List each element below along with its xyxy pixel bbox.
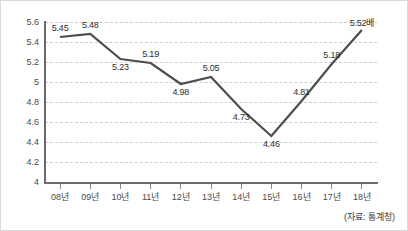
plot-area	[45, 22, 377, 182]
x-axis-tick	[241, 184, 242, 189]
x-axis-tick	[150, 184, 151, 189]
data-point-label: 5.48	[82, 20, 99, 30]
x-axis-tick	[271, 184, 272, 189]
ytick-label: 4.2	[9, 158, 39, 167]
chart-figure: 5.6 5.4 5.2 5 4.8 4.6 4.4 4.2 4 08년09년10…	[0, 0, 408, 231]
data-point-label: 5.23	[112, 62, 129, 72]
x-axis-tick	[331, 184, 332, 189]
xtick-label: 18년	[342, 190, 382, 203]
ytick-label: 5.6	[9, 18, 39, 27]
ytick-label: 5.4	[9, 38, 39, 47]
data-point-label: 4.73	[233, 112, 250, 122]
x-axis-tick	[60, 184, 61, 189]
data-point-label: 4.98	[172, 87, 189, 97]
x-axis-tick	[180, 184, 181, 189]
source-note: (자료: 통계청)	[344, 210, 395, 223]
ytick-label: 4	[9, 178, 39, 187]
data-point-label: 4.81	[293, 87, 310, 97]
data-point-label: 5.52배	[350, 16, 375, 29]
x-axis-tick	[211, 184, 212, 189]
data-point-label: 5.19	[142, 49, 159, 59]
x-axis-tick	[120, 184, 121, 189]
data-point-label: 5.18	[323, 50, 340, 60]
ytick-label: 5.2	[9, 58, 39, 67]
data-point-label: 5.45	[52, 23, 69, 33]
x-axis-tick	[361, 184, 362, 189]
ytick-label: 5	[9, 78, 39, 87]
ytick-label: 4.6	[9, 118, 39, 127]
data-point-label: 4.46	[263, 139, 280, 149]
x-axis-tick	[301, 184, 302, 189]
data-point-label: 5.05	[203, 63, 220, 73]
y-axis-line	[44, 21, 46, 183]
ytick-label: 4.8	[9, 98, 39, 107]
ytick-label: 4.4	[9, 138, 39, 147]
data-series-line	[45, 22, 377, 182]
x-axis-tick	[90, 184, 91, 189]
